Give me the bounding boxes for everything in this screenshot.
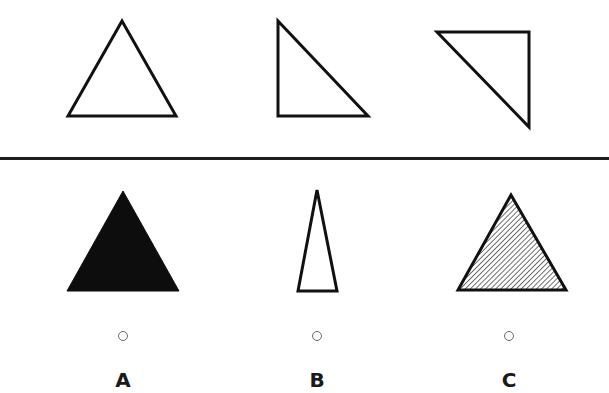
- option-a[interactable]: A: [93, 326, 153, 390]
- option-a-radio[interactable]: [118, 331, 128, 341]
- puzzle-canvas: A B C: [0, 0, 609, 393]
- option-b-label: B: [309, 370, 324, 390]
- option-a-triangle[interactable]: [67, 191, 179, 291]
- option-b-radio[interactable]: [312, 331, 322, 341]
- option-b-triangle[interactable]: [298, 190, 337, 291]
- option-c-label: C: [502, 370, 517, 390]
- option-b[interactable]: B: [287, 326, 347, 390]
- options-row: [0, 0, 609, 300]
- option-a-label: A: [115, 370, 130, 390]
- option-c[interactable]: C: [479, 326, 539, 390]
- option-c-triangle[interactable]: [458, 195, 566, 290]
- option-c-radio[interactable]: [504, 331, 514, 341]
